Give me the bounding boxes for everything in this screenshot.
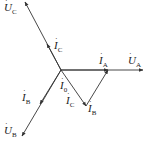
label-i-a: ·IA — [99, 55, 108, 69]
label-i-c-upper: ·IC — [54, 40, 62, 54]
label-i-b-lower: ·IB — [88, 103, 96, 117]
label-u-b: ·UB — [4, 125, 17, 139]
label-i-b-left: ·IB — [22, 92, 30, 106]
label-u-c: ·UC — [4, 2, 17, 16]
phasor-lines — [0, 0, 148, 143]
phasor-i-b-down — [40, 70, 61, 104]
phasor-diagram: ·UC ·IC ·IA ·UA ·IB ·I0 ·IC ·IB ·UB — [0, 0, 148, 143]
label-u-a: ·UA — [128, 55, 141, 69]
label-i-c-lower: ·IC — [66, 95, 74, 109]
